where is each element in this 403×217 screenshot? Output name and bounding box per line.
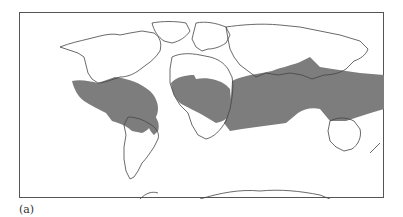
shaded-region-americas [72,77,158,133]
coastline-europe [192,22,230,51]
coastline-antarctica [140,190,330,199]
coastline-greenland [152,22,190,44]
shaded-region-brazil-coast [147,111,158,135]
world-map [20,13,385,199]
coastline-new-zealand [370,143,380,153]
figure-label: (a) [19,203,34,216]
coastline-north-america [60,31,161,83]
coastline-australia [328,118,361,151]
map-frame [19,12,384,198]
shaded-region-indo-pacific [224,57,384,131]
shaded-region-africa [171,75,232,123]
